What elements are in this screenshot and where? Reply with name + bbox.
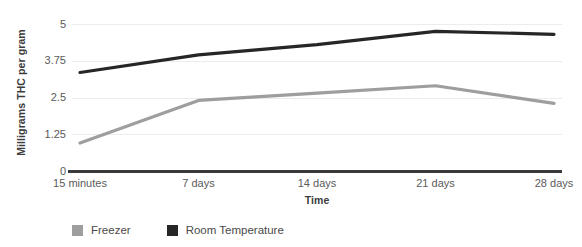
x-tick-label: 28 days: [535, 176, 574, 190]
x-axis-title: Time: [72, 194, 562, 206]
legend-label: Room Temperature: [186, 224, 284, 237]
legend-swatch-icon: [72, 225, 83, 236]
legend-label: Freezer: [91, 224, 131, 237]
y-axis-title: Milligrams THC per gram: [10, 5, 32, 180]
y-tick-label: 2.5: [30, 92, 66, 103]
x-tick-label: 14 days: [298, 176, 337, 190]
y-tick-label: 3.75: [30, 55, 66, 66]
x-tick-label: 7 days: [182, 176, 214, 190]
legend-item[interactable]: Room Temperature: [167, 224, 284, 237]
chart-legend: FreezerRoom Temperature: [72, 222, 320, 238]
y-tick-label: 1.25: [30, 129, 66, 140]
x-tick-label: 21 days: [416, 176, 455, 190]
y-axis-tick-labels: 01.252.53.755: [30, 0, 66, 247]
series-line: [80, 31, 554, 72]
legend-item[interactable]: Freezer: [72, 224, 131, 237]
line-chart: Milligrams THC per gram 01.252.53.755 15…: [0, 0, 582, 247]
y-tick-label: 5: [30, 19, 66, 30]
legend-swatch-icon: [167, 225, 178, 236]
series-line: [80, 86, 554, 143]
x-axis-tick-labels: 15 minutes7 days14 days21 days28 days: [72, 176, 562, 192]
plot-area: [72, 24, 562, 171]
x-tick-label: 15 minutes: [53, 176, 107, 190]
series-lines: [72, 24, 562, 171]
x-axis-line: [68, 170, 562, 173]
y-tick-label: 0: [30, 166, 66, 177]
